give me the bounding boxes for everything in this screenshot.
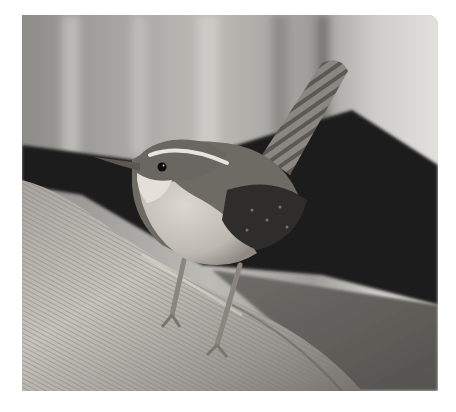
photo — [22, 15, 438, 391]
wren-photo-illustration — [22, 15, 438, 391]
eye — [158, 163, 167, 172]
